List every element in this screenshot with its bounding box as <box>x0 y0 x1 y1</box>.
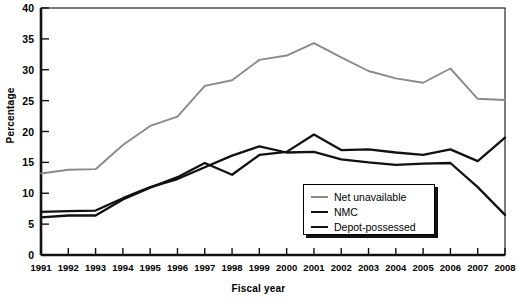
plot-area <box>0 0 517 304</box>
chart-figure: Percentage Fiscal year 0510152025303540 … <box>0 0 517 304</box>
legend-item-nmc: NMC <box>311 205 358 219</box>
chart-legend: Net unavailable NMC Depot-possessed <box>303 184 435 235</box>
legend-swatch-depot-possessed <box>311 226 328 228</box>
legend-label-nmc: NMC <box>334 206 358 218</box>
legend-item-net-unavailable: Net unavailable <box>311 190 406 204</box>
legend-item-depot-possessed: Depot-possessed <box>311 220 416 234</box>
legend-label-net-unavailable: Net unavailable <box>334 191 406 203</box>
legend-swatch-nmc <box>311 211 328 213</box>
legend-swatch-net-unavailable <box>311 196 328 198</box>
legend-label-depot-possessed: Depot-possessed <box>334 221 416 233</box>
